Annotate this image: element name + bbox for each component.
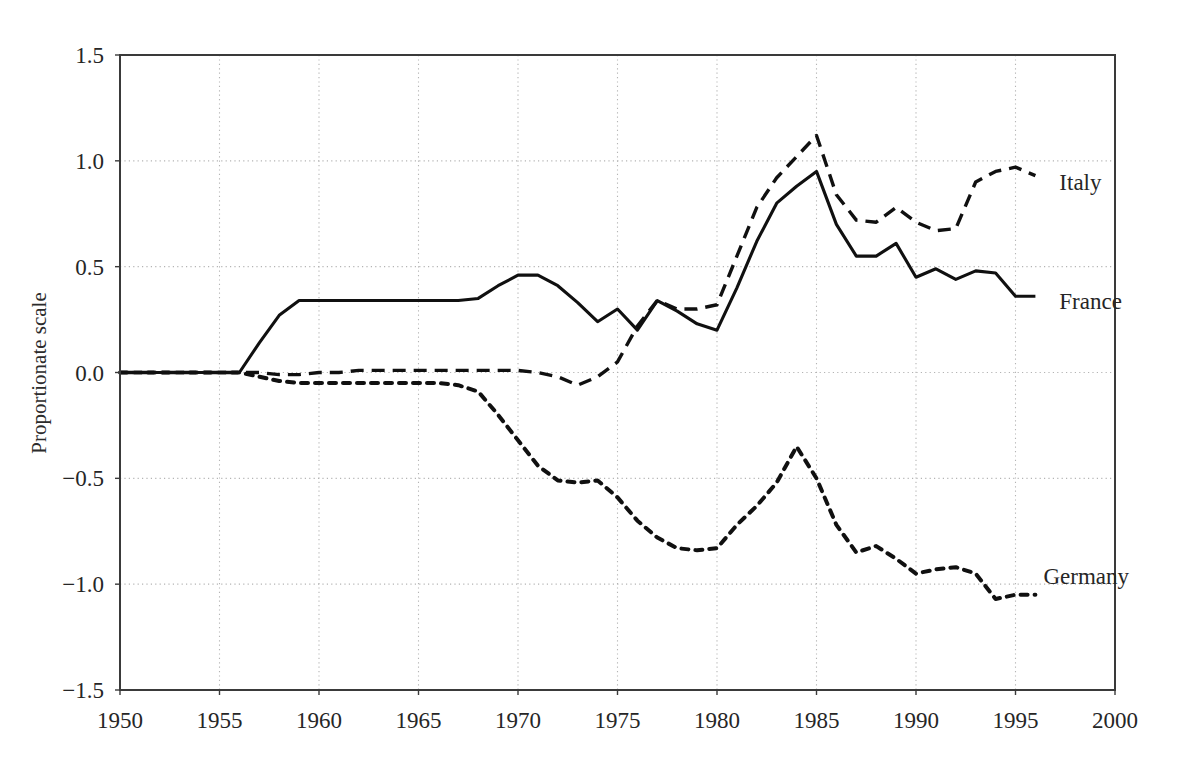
x-tick-label: 1975	[595, 708, 641, 733]
y-axis-title-text: Proportionate scale	[27, 292, 51, 454]
y-tick-label: 1.0	[75, 149, 104, 174]
y-axis-title: Proportionate scale	[27, 292, 51, 454]
series-labels: ItalyFranceGermany	[1043, 170, 1129, 589]
y-axis-tick-labels: −1.5−1.0−0.50.00.51.01.5	[62, 43, 104, 703]
series-lines	[120, 135, 1035, 599]
x-tick-label: 1995	[993, 708, 1039, 733]
y-tick-label: −0.5	[62, 466, 104, 491]
x-tick-label: 1985	[794, 708, 840, 733]
x-tick-label: 1970	[495, 708, 541, 733]
x-tick-label: 1980	[694, 708, 740, 733]
plot-frame	[115, 55, 1115, 695]
y-tick-label: −1.0	[62, 572, 104, 597]
y-tick-label: −1.5	[62, 678, 104, 703]
x-tick-label: 1960	[296, 708, 342, 733]
x-axis-tick-labels: 1950195519601965197019751980198519901995…	[97, 708, 1138, 733]
line-chart: 1950195519601965197019751980198519901995…	[0, 0, 1179, 772]
x-tick-label: 1955	[197, 708, 243, 733]
series-line-france	[120, 171, 1035, 372]
x-tick-label: 1965	[396, 708, 442, 733]
x-tick-label: 2000	[1092, 708, 1138, 733]
x-tick-label: 1990	[893, 708, 939, 733]
series-label-germany: Germany	[1043, 564, 1129, 589]
y-tick-label: 0.0	[75, 361, 104, 386]
x-tick-label: 1950	[97, 708, 143, 733]
series-label-france: France	[1059, 289, 1122, 314]
y-tick-label: 0.5	[75, 255, 104, 280]
series-line-germany	[120, 373, 1035, 599]
chart-figure: 1950195519601965197019751980198519901995…	[0, 0, 1179, 772]
series-label-italy: Italy	[1059, 170, 1102, 195]
y-tick-label: 1.5	[75, 43, 104, 68]
